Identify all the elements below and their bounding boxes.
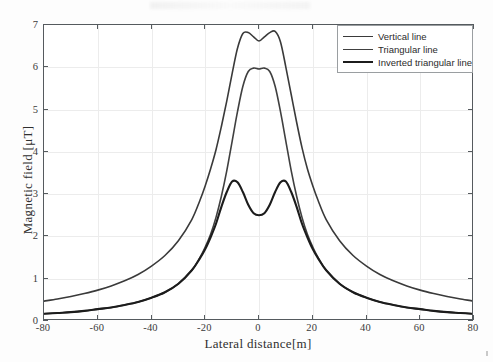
y-tick	[43, 278, 48, 279]
x-tick-label: -60	[89, 322, 104, 333]
y-tick-label: 0	[0, 315, 38, 326]
x-axis-label: Lateral distance[m]	[43, 336, 473, 352]
chart-legend: Vertical lineTriangular lineInverted tri…	[337, 25, 473, 73]
y-tick	[43, 109, 48, 110]
figure-canvas: -80-60-40-2002040608001234567 Lateral di…	[0, 0, 493, 362]
x-tick-top	[204, 24, 205, 29]
x-tick-label: -20	[197, 322, 212, 333]
y-tick-right	[468, 151, 473, 152]
y-tick	[43, 151, 48, 152]
y-tick	[43, 24, 48, 25]
x-tick	[419, 315, 420, 320]
legend-line-swatch	[343, 61, 373, 63]
scan-artifact-dot	[486, 351, 488, 356]
series-line-3	[44, 181, 473, 314]
x-tick-label: 0	[255, 322, 260, 333]
x-tick-label: 20	[306, 322, 317, 333]
x-tick-top	[312, 24, 313, 29]
y-axis-label: Magnetic field [μT]	[20, 70, 36, 290]
y-tick	[43, 235, 48, 236]
y-tick-right	[468, 193, 473, 194]
legend-entry: Inverted triangular line	[341, 56, 468, 68]
x-tick-label: 80	[468, 322, 479, 333]
x-tick-label: 60	[414, 322, 425, 333]
y-tick-right	[468, 235, 473, 236]
y-tick	[43, 193, 48, 194]
x-tick	[366, 315, 367, 320]
legend-entry: Vertical line	[341, 30, 468, 42]
x-tick-top	[97, 24, 98, 29]
y-tick-right	[468, 278, 473, 279]
y-tick	[43, 66, 48, 67]
y-tick-label: 7	[0, 19, 38, 30]
x-tick	[151, 315, 152, 320]
y-tick-right	[468, 109, 473, 110]
legend-label: Triangular line	[378, 44, 438, 55]
x-tick-label: 40	[360, 322, 371, 333]
x-tick-top	[151, 24, 152, 29]
legend-label: Inverted triangular line	[378, 57, 472, 68]
x-tick	[473, 315, 474, 320]
x-tick-top	[473, 24, 474, 29]
scan-artifact	[150, 2, 310, 9]
legend-line-swatch	[343, 36, 373, 37]
x-tick-label: -40	[143, 322, 158, 333]
series-line-2	[44, 68, 473, 314]
legend-label: Vertical line	[378, 31, 427, 42]
legend-line-swatch	[343, 49, 373, 50]
x-tick	[97, 315, 98, 320]
y-tick-right	[468, 320, 473, 321]
x-tick	[258, 315, 259, 320]
x-tick	[204, 315, 205, 320]
x-tick	[312, 315, 313, 320]
legend-entry: Triangular line	[341, 43, 468, 55]
x-tick-top	[258, 24, 259, 29]
y-tick	[43, 320, 48, 321]
